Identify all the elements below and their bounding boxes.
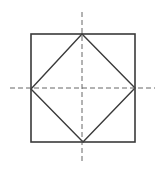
diagram-canvas xyxy=(0,0,162,170)
